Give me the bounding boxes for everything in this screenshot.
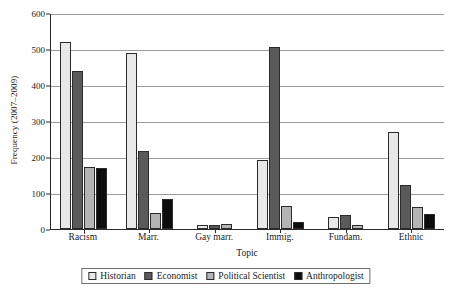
y-axis-tick-label: 400 (32, 82, 46, 91)
y-axis-title: Frequency (2007–2009) (2, 0, 26, 240)
legend-item: Anthropologist (294, 271, 364, 281)
bar-group (51, 14, 117, 229)
bar (84, 167, 95, 229)
y-axis-tick-label: 0 (41, 226, 46, 235)
bar (162, 199, 173, 229)
bar-group (182, 14, 248, 229)
bar (293, 222, 304, 229)
legend-label: Anthropologist (306, 271, 364, 281)
bar (388, 132, 399, 229)
x-axis-tick-label: Fundam. (313, 232, 379, 242)
legend-swatch-icon (206, 272, 214, 280)
legend-swatch-icon (88, 272, 96, 280)
legend-item: Economist (145, 271, 198, 281)
legend-label: Historian (100, 271, 135, 281)
bar (96, 168, 107, 229)
bar (269, 47, 280, 229)
bar-chart-figure: Frequency (2007–2009) 010020030040050060… (0, 0, 452, 304)
legend-item: Political Scientist (206, 271, 285, 281)
bar (126, 53, 137, 229)
x-axis-tick-label: Immig. (247, 232, 313, 242)
y-axis-tick-label: 500 (32, 46, 46, 55)
plot-area-wrapper: 0100200300400500600 (26, 14, 444, 230)
legend-label: Economist (157, 271, 198, 281)
legend-item: Historian (88, 271, 135, 281)
bar (328, 217, 339, 229)
y-axis-ticks: 0100200300400500600 (26, 14, 50, 230)
plot-area (50, 14, 444, 230)
bar-group (117, 14, 183, 229)
bar-group (248, 14, 314, 229)
x-axis-tick-label: Ethnic (378, 232, 444, 242)
bar (352, 225, 363, 229)
legend-label: Political Scientist (218, 271, 285, 281)
bar (60, 42, 71, 229)
legend-swatch-icon (145, 272, 153, 280)
bar-groups (51, 14, 444, 229)
bar (281, 206, 292, 229)
y-axis-tick-label: 100 (32, 190, 46, 199)
bar (150, 213, 161, 229)
y-axis-tick-label: 300 (32, 118, 46, 127)
bar (340, 215, 351, 229)
bar (412, 207, 423, 229)
chart-legend: HistorianEconomistPolitical ScientistAnt… (81, 268, 370, 284)
x-axis-tick-label: Gay marr. (181, 232, 247, 242)
y-axis-title-text: Frequency (2007–2009) (9, 76, 19, 165)
bar (400, 185, 411, 229)
x-axis-tick-label: Racism (50, 232, 116, 242)
bar (138, 151, 149, 229)
x-axis-tick-label: Marr. (116, 232, 182, 242)
x-axis-tick-labels: RacismMarr.Gay marr.Immig.Fundam.Ethnic (50, 232, 444, 242)
y-axis-tick-label: 200 (32, 154, 46, 163)
bar-group (313, 14, 379, 229)
bar-group (379, 14, 445, 229)
bar (424, 214, 435, 229)
bar (257, 160, 268, 229)
legend-swatch-icon (294, 272, 302, 280)
bar (72, 71, 83, 229)
x-axis-title: Topic (50, 248, 444, 258)
y-axis-tick-label: 600 (32, 10, 46, 19)
bar (221, 224, 232, 229)
bar (197, 225, 208, 229)
